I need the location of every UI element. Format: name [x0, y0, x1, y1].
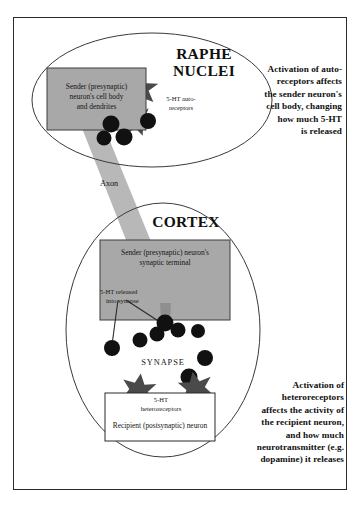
- annotation-bottom-line-3: the recipient neuron,: [240, 416, 344, 428]
- annotation-bottom-line-4: and how much: [240, 429, 344, 441]
- annotation-top-line-5: is released: [250, 125, 342, 137]
- terminal-line1: Sender (presynaptic) neuron's: [102, 248, 228, 258]
- sender-cell-line3: and dendrites: [49, 102, 144, 112]
- sender-cell-line2: neuron's cell body: [49, 92, 144, 102]
- raphe-title-line2: NUCLEI: [156, 62, 252, 79]
- raphe-title-line1: RAPHE: [156, 45, 252, 62]
- autoreceptors-label: 5-HT auto- receptors: [152, 95, 210, 112]
- annotation-top-line-2: the sender neuron's: [250, 88, 342, 100]
- annotation-top-line-0: Activation of auto-: [250, 63, 342, 75]
- release-line2: into synapse: [100, 297, 162, 306]
- raphe-nuclei-title: RAPHE NUCLEI: [156, 45, 252, 79]
- annotation-top-line-1: receptors affects: [250, 75, 342, 87]
- annotation-bottom-line-0: Activation of: [240, 379, 344, 391]
- axon-label: Axon: [100, 179, 118, 188]
- cortex-title: CORTEX: [138, 213, 234, 230]
- terminal-line2: synaptic terminal: [102, 258, 228, 268]
- annotation-bottom-line-5: neurotransmitter (e.g.: [240, 441, 344, 453]
- autoreceptor-label-line2: receptors: [152, 104, 210, 113]
- heteroreceptor-line2: heteroreceptors: [122, 405, 200, 414]
- heteroreceptors-label: 5-HT heteroreceptors: [122, 396, 200, 413]
- serotonin-receptor-diagram: RAPHE NUCLEI Sender (presynaptic) neuron…: [0, 0, 362, 515]
- synapse-5ht-molecules: [104, 315, 213, 386]
- annotation-bottom-line-2: affects the activity of: [240, 404, 344, 416]
- synapse-label: SYNAPSE: [120, 358, 206, 367]
- synaptic-terminal-label: Sender (presynaptic) neuron's synaptic t…: [102, 248, 228, 268]
- annotation-bottom-line-1: heteroreceptors: [240, 391, 344, 403]
- sender-cell-line1: Sender (presynaptic): [49, 82, 144, 92]
- annotation-heteroreceptors: Activation of heteroreceptors affects th…: [240, 379, 344, 466]
- annotation-autoreceptors: Activation of auto- receptors affects th…: [250, 63, 342, 137]
- sender-cell-body-label: Sender (presynaptic) neuron's cell body …: [49, 82, 144, 113]
- annotation-top-line-4: how much 5-HT: [250, 113, 342, 125]
- 5ht-release-label: 5-HT released into synapse: [100, 288, 162, 305]
- autoreceptor-label-line1: 5-HT auto-: [152, 95, 210, 104]
- annotation-bottom-line-6: dopamine) it releases: [240, 453, 344, 465]
- annotation-top-line-3: cell body, changing: [250, 100, 342, 112]
- release-line1: 5-HT released: [100, 288, 162, 297]
- heteroreceptor-line1: 5-HT: [122, 396, 200, 405]
- recipient-neuron-label: Recipient (postsynaptic) neuron: [108, 421, 212, 430]
